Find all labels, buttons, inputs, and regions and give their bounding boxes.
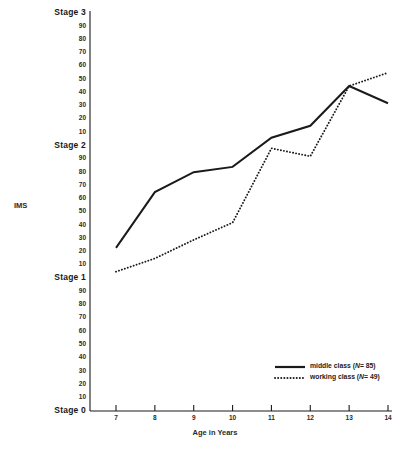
chart-figure: Stage 3908070605040302010Stage 290807060…	[0, 0, 400, 450]
legend-entry-name: middle class	[310, 362, 353, 369]
data-series-lines	[116, 73, 388, 272]
legend-entry-label: working class (N= 49)	[310, 373, 380, 380]
x-axis-ticks	[116, 405, 388, 411]
legend-n-value: = 85)	[360, 362, 376, 369]
legend-line-swatches	[275, 367, 305, 378]
series-line-working-class	[116, 73, 388, 272]
series-line-middle-class	[116, 86, 388, 248]
legend-entry-name: working class	[310, 373, 357, 380]
legend-entry-label: middle class (N= 85)	[310, 362, 376, 369]
legend-n-value: = 49)	[364, 373, 380, 380]
plot-area	[0, 0, 400, 450]
